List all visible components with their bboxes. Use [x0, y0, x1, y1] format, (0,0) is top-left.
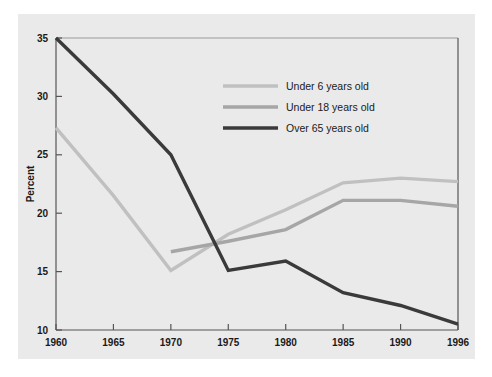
x-tick-label: 1975	[217, 337, 240, 348]
x-tick-label: 1980	[275, 337, 298, 348]
x-axis-ticks	[56, 324, 458, 330]
y-tick-label: 25	[37, 149, 49, 160]
chart-figure: 101520253035 196019651970197519801985199…	[0, 0, 492, 377]
series-line	[56, 38, 458, 324]
legend-label: Over 65 years old	[286, 122, 369, 134]
y-axis-tick-labels: 101520253035	[37, 33, 49, 336]
x-tick-label: 1970	[160, 337, 183, 348]
legend-label: Under 18 years old	[286, 101, 375, 113]
y-tick-label: 10	[37, 325, 49, 336]
y-axis-label: Percent	[25, 165, 36, 202]
x-tick-label: 1960	[45, 337, 68, 348]
legend-label: Under 6 years old	[286, 80, 369, 92]
x-tick-label: 1965	[102, 337, 125, 348]
y-axis-ticks	[56, 38, 62, 330]
y-tick-label: 35	[37, 33, 49, 44]
line-chart: 101520253035 196019651970197519801985199…	[0, 0, 492, 377]
chart-legend: Under 6 years oldUnder 18 years oldOver …	[223, 80, 375, 134]
y-tick-label: 30	[37, 91, 49, 102]
data-series-group	[56, 38, 458, 324]
x-axis-tick-labels: 19601965197019751980198519901996	[45, 337, 470, 348]
plot-axes	[56, 38, 458, 330]
x-tick-label: 1990	[389, 337, 412, 348]
x-tick-label: 1985	[332, 337, 355, 348]
y-tick-label: 15	[37, 266, 49, 277]
y-tick-label: 20	[37, 208, 49, 219]
x-tick-label: 1996	[447, 337, 470, 348]
